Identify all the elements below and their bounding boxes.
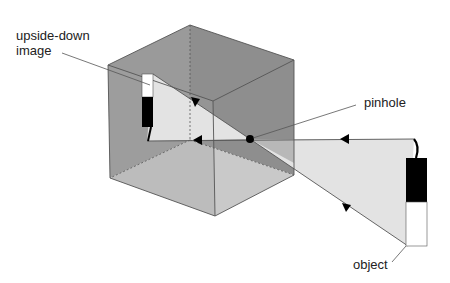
object-black-segment — [406, 158, 427, 202]
image-black-segment — [142, 97, 153, 127]
label-pinhole: pinhole — [364, 95, 406, 110]
leader-object — [392, 246, 406, 262]
label-object: object — [353, 257, 388, 272]
object-wick — [414, 139, 418, 158]
image-white-segment — [142, 74, 153, 97]
label-image-line2: image — [16, 43, 90, 58]
pinhole-dot — [246, 135, 254, 143]
light-cone-outside — [250, 139, 414, 246]
label-upside-down-image: upside-down image — [16, 28, 90, 58]
label-image-line1: upside-down — [16, 28, 90, 43]
object-white-segment — [406, 202, 427, 246]
